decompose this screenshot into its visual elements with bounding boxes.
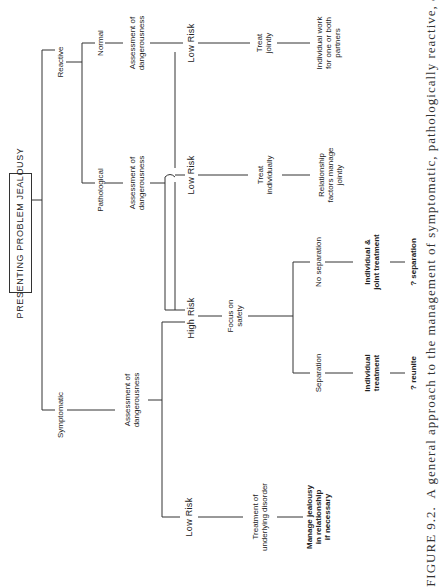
node-individual-treatment: Individual treatment [363,354,381,391]
node-no-separation: No separation [314,237,323,287]
node-q-separation: ? separation [409,238,418,286]
root-label: PRESENTING PROBLEM JEALOUSY [15,148,25,319]
node-reunite: ? reunite [409,356,418,390]
node-symptomatic: Symptomatic [56,392,65,438]
node-manage-jealousy: Manage jealousy in relationship if neces… [305,485,332,549]
node-high-risk: High Risk [187,297,196,338]
node-path-low-risk: Low Risk [187,156,196,195]
node-focus-on-safety: Focus on safety [226,300,244,333]
node-sym-low-risk: Low Risk [185,498,194,537]
node-treat-jointly: Treat jointly [255,33,273,53]
node-separation: Separation [314,354,323,393]
node-relationship-factors: Relationship factors manage jointly [317,147,344,202]
figure-caption: FIGURE 9.2. A general approach to the ma… [423,0,439,587]
node-treatment-underlying: Treatment of underlying disorder [251,483,269,551]
node-pathological: Pathological [96,168,105,212]
node-reactive: Reactive [56,46,65,77]
node-path-assessment: Assessment of dangerousness [128,156,146,211]
node-normal-assessment: Assessment of dangerousness [128,16,146,71]
node-individual-work: Individual work for one or both partners [315,17,342,70]
node-treat-individually: Treat individually [256,155,274,194]
node-individual-joint-treatment: Individual & joint treatment [363,234,381,290]
node-sym-assessment: Assessment of dangerousness [123,373,141,428]
node-normal-low-risk: Low Risk [187,24,196,63]
node-normal: Normal [96,30,105,56]
